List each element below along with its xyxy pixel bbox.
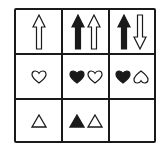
cell-r1-c3 (110, 10, 154, 55)
heart-filled-icon (115, 70, 131, 84)
triangle-outline-icon (87, 114, 103, 128)
triangle-outline-icon (31, 114, 47, 128)
cell-r3-c3-empty-answer (110, 100, 154, 141)
arrow-up-filled-icon (117, 14, 131, 50)
heart-outline-inverted-icon (133, 70, 149, 84)
arrow-up-filled-icon (71, 14, 85, 50)
heart-outline-icon (31, 70, 47, 84)
arrow-up-outline-icon (32, 14, 46, 50)
heart-filled-icon (69, 70, 85, 84)
cell-r3-c2 (63, 100, 110, 141)
heart-outline-icon (87, 70, 103, 84)
arrow-down-outline-icon (133, 14, 147, 50)
arrow-up-outline-icon (87, 14, 101, 50)
cell-r2-c1 (16, 55, 63, 100)
cell-r1-c2 (63, 10, 110, 55)
cell-r3-c1 (16, 100, 63, 141)
cell-r2-c3 (110, 55, 154, 100)
puzzle-grid (14, 8, 156, 143)
cell-r2-c2 (63, 55, 110, 100)
cell-r1-c1 (16, 10, 63, 55)
triangle-filled-icon (69, 114, 85, 128)
